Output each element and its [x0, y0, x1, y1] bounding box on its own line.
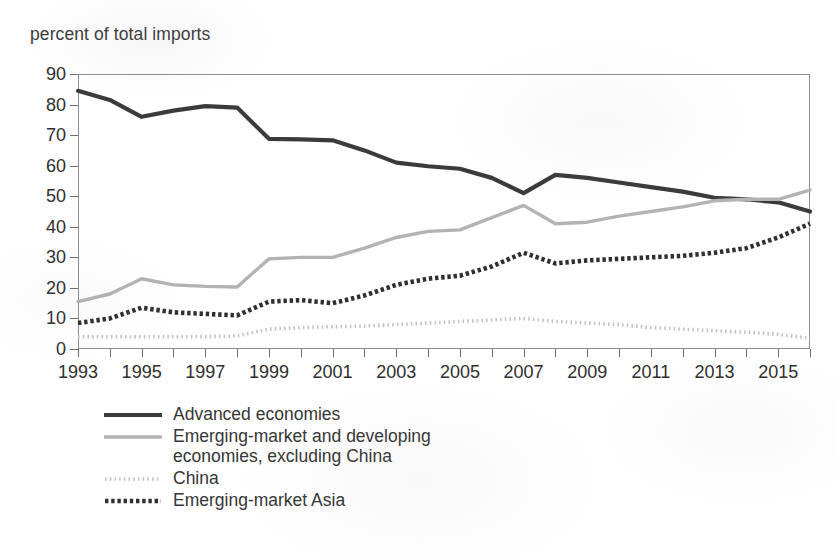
- x-axis-tick-mark: [492, 349, 493, 357]
- x-axis-tick-label: 2015: [758, 362, 798, 383]
- y-axis-tick-label: 40: [26, 216, 66, 237]
- legend-label-advanced: Advanced economies: [173, 404, 340, 424]
- y-axis-tick-label: 60: [26, 155, 66, 176]
- y-axis-tick-label: 50: [26, 186, 66, 207]
- y-axis-tick-mark: [70, 74, 78, 75]
- legend-item-em_ex_china[interactable]: Emerging-market and developing economies…: [104, 426, 664, 466]
- x-axis-tick-label: 2007: [504, 362, 544, 383]
- x-axis-tick-label: 1993: [58, 362, 98, 383]
- x-axis-tick-label: 2009: [567, 362, 607, 383]
- x-axis-tick-mark: [173, 349, 174, 357]
- legend-label-china: China: [173, 468, 219, 488]
- x-axis-tick-label: 1995: [122, 362, 162, 383]
- x-axis-tick-mark: [269, 349, 270, 357]
- x-axis-tick-mark: [396, 349, 397, 357]
- y-axis-tick-label: 20: [26, 277, 66, 298]
- x-axis-tick-mark: [301, 349, 302, 357]
- legend-item-china[interactable]: China: [104, 468, 664, 488]
- x-axis-tick-label: 2003: [376, 362, 416, 383]
- x-axis-tick-mark: [205, 349, 206, 357]
- x-axis-tick-label: 2011: [632, 362, 671, 383]
- y-axis-tick-mark: [70, 105, 78, 106]
- x-axis-tick-label: 2013: [694, 362, 734, 383]
- series-line-solid-gray: [78, 190, 810, 302]
- series-line-dotted-light: [78, 318, 810, 338]
- legend-swatch-em_ex_china-icon: [104, 426, 162, 446]
- x-axis-tick-mark: [333, 349, 334, 357]
- x-axis-tick-mark: [587, 349, 588, 357]
- x-axis-tick-label: 2005: [440, 362, 480, 383]
- series-line-solid-dark: [78, 91, 810, 212]
- x-axis-tick-mark: [715, 349, 716, 357]
- x-axis-tick-mark: [778, 349, 779, 357]
- legend-swatch-em_asia-icon: [104, 490, 162, 510]
- plot-area: 0102030405060708090 19931995199719992001…: [78, 74, 810, 349]
- x-axis-tick-mark: [364, 349, 365, 357]
- series-line-dotted-dark: [78, 224, 810, 323]
- x-axis-tick-mark: [460, 349, 461, 357]
- legend-swatch-advanced-icon: [104, 404, 162, 424]
- x-axis-tick-mark: [555, 349, 556, 357]
- y-axis-tick-mark: [70, 288, 78, 289]
- legend-label-em_ex_china: Emerging-market and developing economies…: [173, 426, 431, 466]
- y-axis-tick-mark: [70, 257, 78, 258]
- chart-legend: Advanced economiesEmerging-market and de…: [104, 404, 664, 512]
- x-axis-tick-mark: [619, 349, 620, 357]
- x-axis-tick-mark: [683, 349, 684, 357]
- x-axis-tick-label: 1997: [185, 362, 225, 383]
- y-axis-tick-mark: [70, 166, 78, 167]
- chart-axis-caption: percent of total imports: [30, 24, 210, 45]
- y-axis-tick-mark: [70, 227, 78, 228]
- legend-item-advanced[interactable]: Advanced economies: [104, 404, 664, 424]
- x-axis-tick-mark: [524, 349, 525, 357]
- y-axis-tick-mark: [70, 135, 78, 136]
- legend-swatch-china-icon: [104, 468, 162, 488]
- y-axis-tick-mark: [70, 318, 78, 319]
- y-axis-tick-mark: [70, 349, 78, 350]
- y-axis-tick-label: 70: [26, 125, 66, 146]
- x-axis-tick-label: 2001: [313, 362, 353, 383]
- legend-item-em_asia[interactable]: Emerging-market Asia: [104, 490, 664, 510]
- x-axis-tick-mark: [428, 349, 429, 357]
- legend-label-em_asia: Emerging-market Asia: [173, 490, 345, 510]
- chart-series-group: [78, 74, 810, 349]
- x-axis-tick-label: 1999: [249, 362, 289, 383]
- x-axis-tick-mark: [746, 349, 747, 357]
- x-axis-tick-mark: [78, 349, 79, 357]
- x-axis-tick-mark: [110, 349, 111, 357]
- y-axis-tick-label: 0: [26, 339, 66, 360]
- y-axis-tick-label: 10: [26, 308, 66, 329]
- y-axis-tick-label: 80: [26, 94, 66, 115]
- y-axis-tick-label: 30: [26, 247, 66, 268]
- y-axis-tick-label: 90: [26, 64, 66, 85]
- y-axis-tick-mark: [70, 196, 78, 197]
- x-axis-tick-mark: [237, 349, 238, 357]
- x-axis-tick-mark: [810, 349, 811, 357]
- x-axis-tick-mark: [142, 349, 143, 357]
- x-axis-tick-mark: [651, 349, 652, 357]
